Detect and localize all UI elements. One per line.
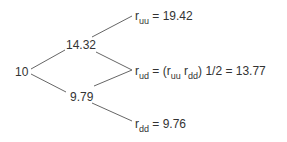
edge-root-down [31, 74, 66, 92]
node-down: 9.79 [70, 91, 93, 103]
leaf-dd-sub: dd [139, 124, 149, 134]
leaf-ud-b-sub: dd [188, 71, 198, 81]
edge-down-ud [94, 70, 132, 86]
edge-root-up [31, 50, 65, 69]
leaf-uu-expr: = 19.42 [149, 9, 193, 23]
leaf-ud-a-sub: uu [171, 71, 181, 81]
leaf-ud-expr-pre: = ( [149, 64, 167, 78]
edge-up-uu [92, 16, 132, 37]
node-root: 10 [15, 66, 28, 78]
leaf-dd: rdd = 9.76 [135, 118, 186, 131]
edge-up-ud [96, 52, 132, 70]
leaf-ud: rud = (ruu rdd) 1/2 = 13.77 [135, 65, 266, 78]
leaf-ud-b-symbol: r [181, 64, 188, 78]
leaf-dd-expr: = 9.76 [149, 117, 186, 131]
edge-down-dd [92, 103, 132, 121]
node-up: 14.32 [66, 39, 96, 51]
leaf-uu: ruu = 19.42 [135, 10, 193, 23]
leaf-ud-expr-post: ) 1/2 = 13.77 [198, 64, 266, 78]
leaf-ud-sub: ud [139, 71, 149, 81]
leaf-uu-sub: uu [139, 16, 149, 26]
